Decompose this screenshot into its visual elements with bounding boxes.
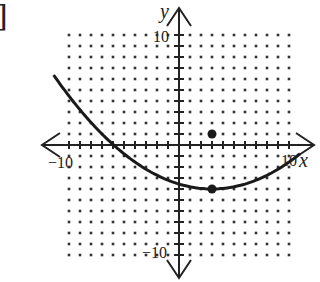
grid-dot	[90, 78, 93, 81]
grid-dot	[79, 89, 82, 92]
grid-dot	[134, 243, 137, 246]
grid-dot	[244, 67, 247, 70]
grid-dot	[112, 232, 115, 235]
grid-dot	[277, 111, 280, 114]
grid-dot	[90, 221, 93, 224]
grid-dot	[68, 56, 71, 59]
grid-dot	[68, 133, 71, 136]
grid-dot	[233, 177, 236, 180]
grid-dot	[222, 133, 225, 136]
grid-dot	[288, 89, 291, 92]
grid-dot	[101, 78, 104, 81]
grid-dot	[101, 177, 104, 180]
grid-dot	[244, 89, 247, 92]
grid-dot	[211, 122, 214, 125]
grid-dot	[90, 45, 93, 48]
grid-dot	[288, 232, 291, 235]
grid-dot	[79, 122, 82, 125]
grid-dot	[156, 221, 159, 224]
grid-dot	[134, 122, 137, 125]
grid-dot	[145, 177, 148, 180]
grid-dot	[255, 243, 258, 246]
grid-dot	[200, 78, 203, 81]
grid-dot	[211, 166, 214, 169]
grid-dot	[200, 67, 203, 70]
grid-dot	[244, 188, 247, 191]
grid-dot	[167, 166, 170, 169]
x-min-label: −10	[48, 154, 73, 172]
grid-dot	[189, 243, 192, 246]
grid-dot	[222, 111, 225, 114]
grid-dot	[101, 232, 104, 235]
grid-dot	[277, 133, 280, 136]
grid-dot	[90, 133, 93, 136]
grid-dot	[266, 67, 269, 70]
grid-dot	[112, 34, 115, 37]
grid-dot	[79, 221, 82, 224]
grid-dot	[68, 122, 71, 125]
grid-dot	[112, 100, 115, 103]
grid-dot	[156, 166, 159, 169]
grid-dot	[189, 67, 192, 70]
grid-dot	[200, 45, 203, 48]
grid-dot	[233, 166, 236, 169]
grid-dot	[189, 111, 192, 114]
grid-dot	[288, 67, 291, 70]
grid-dot	[123, 177, 126, 180]
grid-dot	[90, 56, 93, 59]
grid-dot	[123, 210, 126, 213]
grid-dot	[244, 34, 247, 37]
grid-dot	[156, 188, 159, 191]
grid-dot	[134, 232, 137, 235]
grid-dot	[68, 232, 71, 235]
grid-dot	[222, 210, 225, 213]
grid-dot	[134, 221, 137, 224]
grid-dot	[288, 199, 291, 202]
grid-dot	[123, 188, 126, 191]
grid-dot	[266, 45, 269, 48]
grid-dot	[211, 78, 214, 81]
grid-dot	[134, 78, 137, 81]
grid-dot	[288, 56, 291, 59]
grid-dot	[112, 210, 115, 213]
grid-dot	[222, 166, 225, 169]
grid-dot	[244, 100, 247, 103]
grid-dot	[68, 45, 71, 48]
grid-dot	[277, 243, 280, 246]
grid-dot	[79, 243, 82, 246]
grid-dot	[68, 210, 71, 213]
grid-dot	[123, 199, 126, 202]
grid-dot	[134, 155, 137, 158]
grid-dot	[134, 188, 137, 191]
grid-dot	[233, 155, 236, 158]
grid-dot	[233, 122, 236, 125]
grid-dot	[134, 177, 137, 180]
grid-dot	[90, 177, 93, 180]
grid-dot	[79, 254, 82, 257]
grid-dot	[189, 56, 192, 59]
grid-dot	[167, 232, 170, 235]
grid-dot	[288, 45, 291, 48]
grid-dot	[288, 78, 291, 81]
grid-dot	[134, 199, 137, 202]
grid-dot	[145, 210, 148, 213]
grid-dot	[277, 34, 280, 37]
grid-dot	[145, 133, 148, 136]
grid-dot	[145, 221, 148, 224]
grid-dot	[266, 232, 269, 235]
grid-dot	[222, 254, 225, 257]
grid-dot	[145, 111, 148, 114]
grid-dot	[79, 34, 82, 37]
grid-dot	[222, 45, 225, 48]
grid-dot	[134, 56, 137, 59]
grid-dot	[68, 111, 71, 114]
grid-dot	[222, 100, 225, 103]
grid-dot	[79, 155, 82, 158]
grid-dot	[68, 221, 71, 224]
grid-dot	[233, 210, 236, 213]
grid-dot	[156, 199, 159, 202]
grid-dot	[189, 34, 192, 37]
grid-dot	[200, 100, 203, 103]
grid-dot	[244, 177, 247, 180]
grid-dot	[68, 188, 71, 191]
